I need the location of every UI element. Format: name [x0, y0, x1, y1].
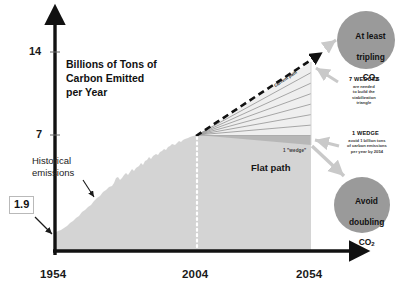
one-wedge-inline-label: 1 "wedge" [283, 148, 306, 153]
y-tick-14: 14 [29, 45, 41, 58]
start-value-box: 1.9 [9, 196, 34, 214]
doubling-callout-pointer [312, 146, 344, 176]
callout-tripling-line2: tripling [356, 52, 384, 62]
callout-doubling-subscript: 2 [371, 241, 374, 247]
tripling-callout-pointer [325, 40, 336, 48]
start-value-pointer [35, 217, 52, 234]
callout-text-doubling: Avoid doubling CO2 [332, 186, 392, 259]
callout-tripling-subscript: 2 [375, 76, 378, 82]
annotation-one-wedge-body: avoid 1 billion tons of carbon emissions… [347, 138, 387, 154]
figure-canvas: 14 7 Billions of Tons of Carbon Emitted … [0, 0, 413, 295]
y-axis-title: Billions of Tons of Carbon Emitted per Y… [66, 57, 157, 100]
x-tick-2004: 2004 [182, 268, 208, 281]
y-tick-7: 7 [36, 128, 42, 141]
callout-doubling-line2: doubling [349, 217, 384, 227]
one-wedge-pointer [315, 140, 339, 146]
callout-doubling-line3: CO [359, 237, 372, 247]
callout-tripling-line3: CO [363, 72, 376, 82]
callout-tripling-line1: At least [355, 31, 385, 41]
callout-text-tripling: At least tripling CO2 [336, 21, 396, 94]
historical-emissions-pointer [83, 180, 94, 197]
x-tick-1954: 1954 [40, 268, 66, 281]
x-tick-2054: 2054 [296, 268, 322, 281]
seven-wedges-pointer [316, 68, 338, 82]
callout-doubling-line1: Avoid [355, 196, 378, 206]
historical-emissions-area [55, 135, 197, 251]
annotation-one-wedge-heading: 1 WEDGE [352, 130, 379, 136]
historical-emissions-label: Historical emissions [32, 155, 74, 179]
flat-path-label: Flat path [251, 163, 291, 174]
